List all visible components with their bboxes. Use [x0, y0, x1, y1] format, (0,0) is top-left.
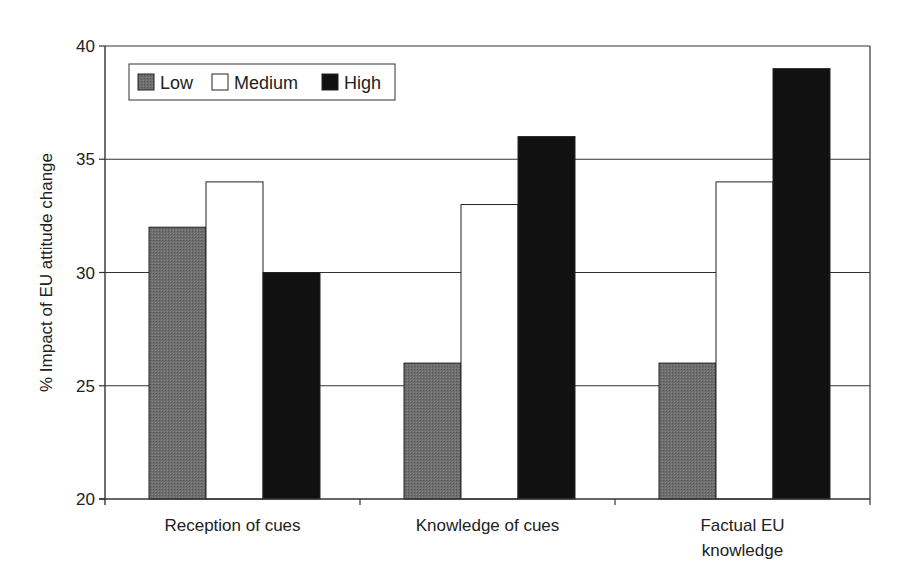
bars	[149, 69, 830, 499]
bar-chart: 2025303540 Reception of cuesKnowledge of…	[0, 0, 907, 585]
y-tick-label: 20	[76, 490, 95, 509]
bar-high-2	[518, 137, 575, 499]
y-tick-label: 40	[76, 37, 95, 56]
legend-swatch-medium	[212, 74, 228, 90]
bar-medium-1	[206, 182, 263, 499]
y-axis-title: % Impact of EU attitude change	[37, 153, 56, 392]
legend-swatch-low	[138, 74, 154, 90]
legend-label-medium: Medium	[234, 73, 298, 93]
legend-label-low: Low	[160, 73, 194, 93]
bar-low-2	[404, 363, 461, 499]
y-tick-label: 30	[76, 264, 95, 283]
bar-medium-2	[461, 205, 518, 499]
bar-high-3	[773, 69, 830, 499]
x-category-label: Knowledge of cues	[416, 516, 560, 535]
bar-medium-3	[716, 182, 773, 499]
x-category-label: Factual EU	[700, 516, 784, 535]
bar-low-1	[149, 227, 206, 499]
x-category-label: Reception of cues	[164, 516, 300, 535]
y-tick-label: 35	[76, 150, 95, 169]
bar-low-3	[659, 363, 716, 499]
legend-swatch-high	[322, 74, 338, 90]
y-tick-label: 25	[76, 377, 95, 396]
x-category-label: knowledge	[702, 541, 783, 560]
legend: LowMediumHigh	[129, 64, 395, 100]
bar-high-1	[263, 273, 320, 500]
legend-label-high: High	[344, 73, 381, 93]
